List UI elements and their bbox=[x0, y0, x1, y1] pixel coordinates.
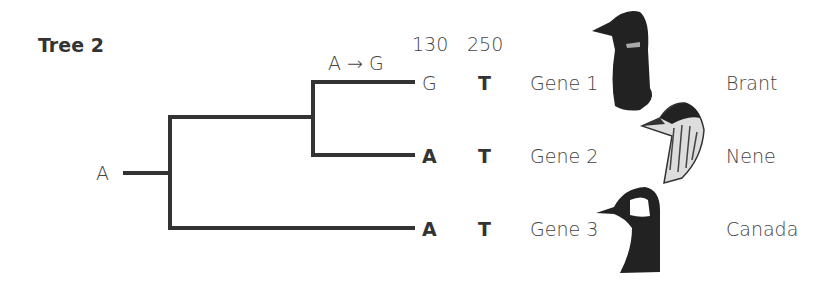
tip1-species: Brant bbox=[726, 72, 777, 94]
mutation-label: A → G bbox=[328, 52, 384, 74]
tip2-site130: A bbox=[422, 145, 437, 167]
tip2-species: Nene bbox=[726, 145, 776, 167]
tip1-gene: Gene 1 bbox=[530, 72, 598, 94]
root-state-label: A bbox=[96, 162, 109, 184]
tip2-site250: T bbox=[478, 145, 491, 167]
brant-goose-head-icon bbox=[592, 11, 652, 110]
tip1-site130: G bbox=[422, 72, 437, 94]
site-header-250: 250 bbox=[467, 33, 503, 55]
tip3-species: Canada bbox=[726, 218, 798, 240]
tip3-gene: Gene 3 bbox=[530, 218, 598, 240]
site-header-130: 130 bbox=[412, 33, 448, 55]
tip3-site130: A bbox=[422, 218, 437, 240]
canada-goose-head-icon bbox=[596, 187, 660, 273]
tip2-gene: Gene 2 bbox=[530, 145, 598, 167]
tip3-site250: T bbox=[478, 218, 491, 240]
tip1-site250: T bbox=[478, 72, 491, 94]
nene-goose-head-icon bbox=[642, 103, 704, 183]
